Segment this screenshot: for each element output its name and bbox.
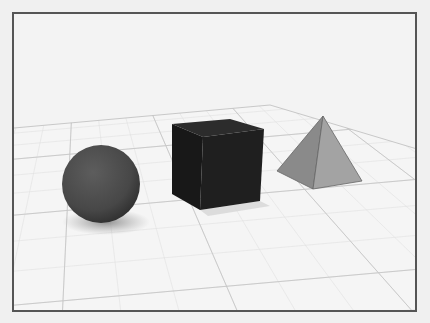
- cube-front-face: [200, 129, 264, 210]
- rendered-scene: [14, 14, 415, 310]
- cube: [172, 119, 264, 210]
- sphere: [62, 145, 140, 223]
- image-frame: [12, 12, 417, 312]
